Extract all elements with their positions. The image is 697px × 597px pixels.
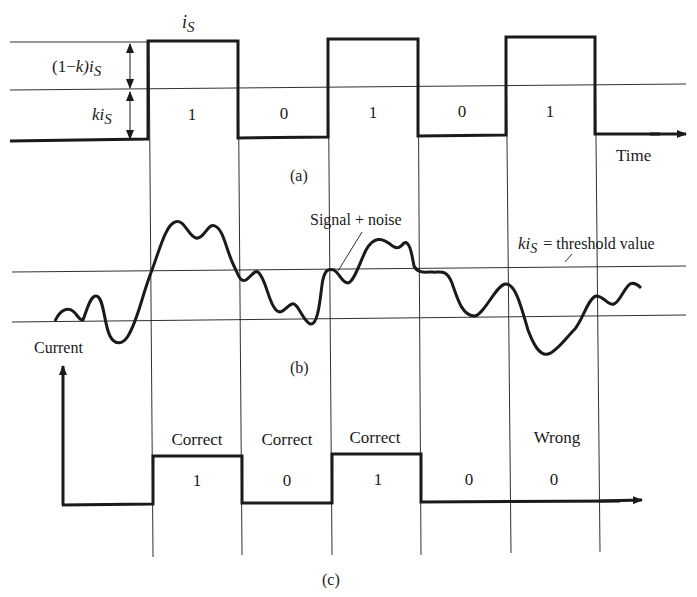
- bit-a-5: 1: [546, 102, 555, 121]
- bit-a-2: 0: [280, 104, 289, 123]
- threshold-level-line-a: [10, 84, 686, 90]
- zero-level-line-b: [12, 315, 686, 322]
- bit-c-1: 1: [193, 471, 202, 490]
- peak-current-label: iS: [182, 12, 195, 35]
- current-axis-label: Current: [34, 339, 83, 356]
- time-axis-label: Time: [616, 146, 651, 165]
- panel-c-caption: (c): [322, 571, 340, 589]
- panel-a-caption: (a): [290, 167, 308, 185]
- panel-b: Signal + noise kiS= threshold value Curr…: [12, 211, 686, 377]
- decision-threshold-diagram: iS (1−k)iS kiS 1 0 1 0 1 Time (a) Signal…: [0, 0, 697, 597]
- decoded-time-axis-arrow: [600, 500, 642, 501]
- bit-c-2: 0: [283, 471, 292, 490]
- panel-a: iS (1−k)iS kiS 1 0 1 0 1 Time (a): [10, 12, 686, 185]
- verdict-3: Correct: [350, 428, 401, 447]
- lower-segment-label: kiS: [92, 105, 112, 127]
- bit-c-4: 0: [465, 470, 474, 489]
- panel-b-caption: (b): [290, 359, 309, 377]
- threshold-level-line-b: [12, 266, 686, 272]
- upper-segment-label: (1−k)iS: [52, 57, 102, 79]
- bit-a-4: 0: [458, 102, 467, 121]
- bit-a-1: 1: [188, 105, 197, 124]
- verdict-1: Correct: [172, 430, 223, 449]
- threshold-value-label: kiS= threshold value: [518, 234, 655, 256]
- signal-plus-noise-label: Signal + noise: [310, 211, 402, 229]
- bit-c-5: 0: [550, 470, 559, 489]
- bit-c-3: 1: [374, 470, 383, 489]
- verdict-2: Correct: [262, 430, 313, 449]
- decoded-signal-waveform: [62, 454, 620, 505]
- verdict-5: Wrong: [534, 428, 581, 447]
- bit-a-3: 1: [369, 103, 378, 122]
- panel-c: Correct Correct Correct Wrong 1 0 1 0 0 …: [62, 366, 642, 589]
- threshold-label-leader: [565, 254, 572, 262]
